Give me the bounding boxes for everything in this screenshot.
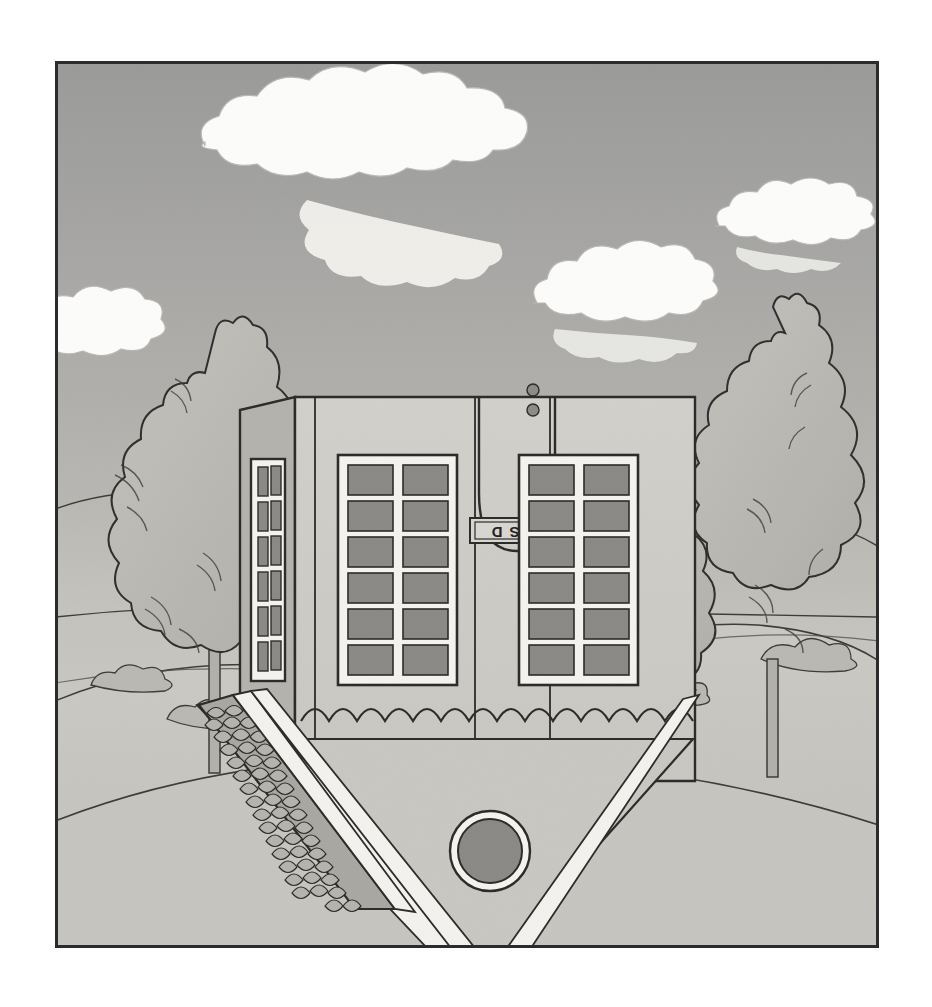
illustration-canvas: Upside-Down House Illustration grayscale… — [0, 0, 932, 1007]
window-front-left — [338, 455, 457, 685]
round-window — [450, 811, 530, 891]
framed-illustration: MRS D — [55, 61, 879, 948]
window-front-right — [519, 455, 638, 685]
tree-trunk-right-tall — [767, 659, 778, 777]
door-knob — [527, 384, 539, 396]
door-knob-visible — [527, 404, 539, 416]
window-side-left — [251, 459, 285, 681]
